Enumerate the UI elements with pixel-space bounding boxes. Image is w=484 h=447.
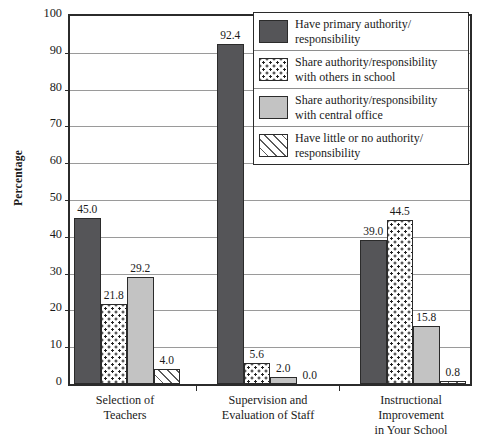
y-tick-mark <box>65 347 70 348</box>
chart-legend: Have primary authority/responsibilitySha… <box>253 12 469 165</box>
bar-value-label: 5.6 <box>232 348 283 360</box>
legend-row-2[interactable]: Share authority/responsibilitywith centr… <box>254 89 468 127</box>
bar-value-label: 92.4 <box>205 29 256 41</box>
y-tick-label: 30 <box>0 264 62 279</box>
gridline <box>70 200 470 201</box>
legend-label-line2: responsibility <box>295 146 423 161</box>
y-tick-label: 40 <box>0 227 62 242</box>
legend-label-0: Have primary authority/responsibility <box>295 17 411 46</box>
x-group-label-line: Instructional <box>331 393 484 408</box>
legend-swatch-primary-authority <box>259 20 288 43</box>
y-tick-mark <box>65 200 70 201</box>
legend-label-3: Have little or no authority/responsibili… <box>295 131 423 160</box>
y-tick-label: 10 <box>0 337 62 352</box>
y-tick-label: 80 <box>0 80 62 95</box>
bar-value-label: 0.8 <box>428 366 479 378</box>
legend-label-1: Share authority/responsibilitywith other… <box>295 55 437 84</box>
legend-swatch-share-others-school <box>259 58 288 81</box>
y-tick-label: 0 <box>0 374 62 389</box>
y-tick-label: 90 <box>0 43 62 58</box>
legend-label-2: Share authority/responsibilitywith centr… <box>295 93 437 122</box>
legend-label-line1: Have little or no authority/ <box>295 131 423 146</box>
bar-value-label: 29.2 <box>115 262 166 274</box>
legend-label-line2: with others in school <box>295 70 437 85</box>
x-group-label-line: in Your School <box>331 423 484 438</box>
y-tick-label: 70 <box>0 116 62 131</box>
bar-2-3 <box>440 381 467 384</box>
y-tick-mark <box>65 163 70 164</box>
y-tick-mark <box>65 310 70 311</box>
x-group-label-line: Evaluation of Staff <box>188 408 348 423</box>
legend-row-3[interactable]: Have little or no authority/responsibili… <box>254 127 468 164</box>
x-tick-mark <box>339 384 340 391</box>
bar-value-label: 44.5 <box>375 205 426 217</box>
legend-label-line1: Have primary authority/ <box>295 17 411 32</box>
bar-chart-figure: Percentage 0102030405060708090100 45.021… <box>0 0 484 447</box>
x-group-label-line: Supervision and <box>188 393 348 408</box>
legend-label-line2: responsibility <box>295 32 411 47</box>
x-group-label-line: Improvement <box>331 408 484 423</box>
legend-row-0[interactable]: Have primary authority/responsibility <box>254 13 468 51</box>
y-tick-label: 60 <box>0 153 62 168</box>
y-tick-mark <box>65 53 70 54</box>
bar-2-1 <box>387 220 414 384</box>
x-tick-mark <box>196 384 197 391</box>
bar-value-label: 0.0 <box>285 369 336 381</box>
x-group-label-line: Selection of <box>45 393 205 408</box>
legend-swatch-little-no-authority <box>259 134 288 157</box>
y-tick-mark <box>65 126 70 127</box>
bar-1-0 <box>217 44 244 384</box>
y-tick-label: 20 <box>0 300 62 315</box>
legend-label-line1: Share authority/responsibility <box>295 55 437 70</box>
legend-row-1[interactable]: Share authority/responsibilitywith other… <box>254 51 468 89</box>
bar-0-3 <box>154 369 181 384</box>
y-tick-label: 100 <box>0 6 62 21</box>
legend-label-line1: Share authority/responsibility <box>295 93 437 108</box>
x-group-label-2: InstructionalImprovementin Your School <box>331 393 484 438</box>
x-group-label-line: Teachers <box>45 408 205 423</box>
bar-2-0 <box>360 240 387 384</box>
bar-0-2 <box>127 277 154 384</box>
y-axis-title: Percentage <box>12 118 24 238</box>
legend-label-line2: with central office <box>295 108 437 123</box>
bar-value-label: 15.8 <box>401 311 452 323</box>
legend-swatch-share-central-office <box>259 96 288 119</box>
y-tick-label: 50 <box>0 190 62 205</box>
bar-0-0 <box>74 218 101 384</box>
y-tick-mark <box>65 237 70 238</box>
x-group-label-1: Supervision andEvaluation of Staff <box>188 393 348 423</box>
bar-value-label: 45.0 <box>62 203 113 215</box>
bar-0-1 <box>101 304 128 384</box>
y-tick-mark <box>65 90 70 91</box>
y-tick-mark <box>65 274 70 275</box>
bar-value-label: 4.0 <box>142 354 193 366</box>
x-group-label-0: Selection ofTeachers <box>45 393 205 423</box>
